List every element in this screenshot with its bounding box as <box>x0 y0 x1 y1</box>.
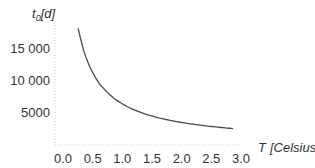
x-tick-label: 2.5 <box>202 151 220 166</box>
y-tick-labels: 500010 00015 000 <box>10 41 50 120</box>
x-tick-label: 1.5 <box>143 151 161 166</box>
x-tick-label: 0.0 <box>54 151 72 166</box>
x-tick-label: 2.0 <box>173 151 191 166</box>
y-tick-label: 10 000 <box>10 73 50 88</box>
x-tick-label: 1.0 <box>113 151 131 166</box>
y-tick-label: 5000 <box>21 105 50 120</box>
x-tick-label: 3.0 <box>232 151 250 166</box>
y-axis-label: t0[d] <box>32 6 55 23</box>
data-curve <box>78 28 233 128</box>
x-axis-label: T[Celsius] <box>258 140 315 155</box>
chart: 500010 00015 000 0.00.51.01.52.02.53.0 t… <box>0 0 315 168</box>
x-tick-label: 0.5 <box>84 151 102 166</box>
y-tick-label: 15 000 <box>10 41 50 56</box>
x-tick-labels: 0.00.51.01.52.02.53.0 <box>54 151 250 166</box>
